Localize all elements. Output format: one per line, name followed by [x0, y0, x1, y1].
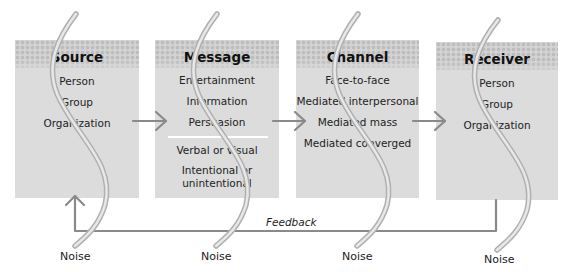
- noise-curve-channel: [334, 14, 388, 246]
- arrow-message-to-channel: [273, 112, 305, 130]
- noise-curve-receiver: [474, 20, 528, 250]
- noise-curve-message: [193, 14, 247, 246]
- feedback-label: Feedback: [266, 216, 317, 228]
- noise-label-message: Noise: [201, 250, 232, 263]
- arrow-channel-to-receiver: [413, 112, 445, 130]
- noise-label-channel: Noise: [342, 250, 373, 263]
- noise-curve-source: [52, 14, 106, 246]
- noise-label-receiver: Noise: [484, 253, 515, 266]
- noise-label-source: Noise: [60, 250, 91, 263]
- arrow-source-to-message: [133, 112, 166, 130]
- connectors-overlay: [0, 0, 570, 272]
